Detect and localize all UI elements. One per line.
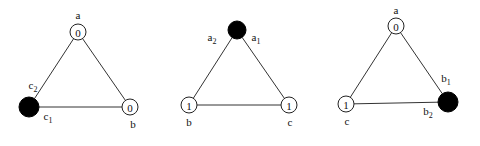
node-label: c <box>288 116 293 128</box>
edge-a-b <box>193 38 232 99</box>
edge-a-c <box>34 39 73 99</box>
node-label: b <box>186 116 192 128</box>
node-value: 0 <box>75 27 81 39</box>
node-label: a <box>394 4 399 16</box>
port-label: c2 <box>29 79 38 94</box>
port-label: c1 <box>44 110 53 125</box>
node-a-filled <box>228 21 246 39</box>
edge-a-c <box>242 37 284 98</box>
node-value: 1 <box>286 100 292 112</box>
node-label: c <box>345 115 350 127</box>
edge-c-b <box>354 102 438 104</box>
port-label: a1 <box>252 31 261 46</box>
node-value: 1 <box>186 100 192 112</box>
triangle-graph-2: 1b1ca2a1 <box>181 21 297 128</box>
triangle-graph-1: 0a0bc2c1 <box>19 9 138 130</box>
node-value: 0 <box>393 21 399 33</box>
node-value: 0 <box>127 102 133 114</box>
edge-a-c <box>350 33 391 98</box>
port-label: a2 <box>208 31 217 46</box>
edge-a-b <box>83 39 126 101</box>
port-label: b2 <box>423 105 433 120</box>
node-value: 1 <box>343 99 349 111</box>
node-c-filled <box>19 97 39 117</box>
node-b-filled <box>438 92 458 112</box>
node-label: b <box>130 118 136 130</box>
node-label: a <box>76 9 81 21</box>
triangle-graph-3: 0a1cb1b2 <box>338 4 458 127</box>
diagram-canvas: 0a0bc2c11b1ca2a10a1cb1b2 <box>0 0 480 146</box>
edge-a-b <box>401 33 443 94</box>
port-label: b1 <box>441 72 451 87</box>
